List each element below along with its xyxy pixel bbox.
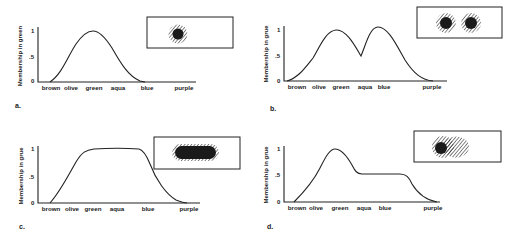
x-label-blue: blue: [378, 83, 391, 90]
x-label-brown: brown: [42, 205, 61, 212]
panel-label: c.: [19, 223, 25, 230]
y-tick-0: 0: [31, 78, 35, 84]
x-tick-labels: brown olive green aqua blue purple: [42, 205, 199, 212]
panel-label: a.: [15, 102, 21, 109]
x-label-purple: purple: [175, 84, 194, 91]
membership-curve: [50, 31, 145, 82]
dark-core: [435, 142, 447, 154]
y-tick-half: .5: [275, 172, 281, 178]
x-label-aqua: aqua: [358, 83, 373, 90]
x-label-aqua: aqua: [357, 204, 372, 211]
y-axis-label: Membership in grue: [263, 146, 269, 204]
inset-diagram: [154, 137, 240, 169]
dark-pill: [175, 146, 216, 159]
inset-diagram: [414, 131, 501, 162]
panel-b: Membership in grue 1 .5 0 brown olive gr…: [263, 7, 502, 112]
y-tick-half: .5: [29, 54, 35, 60]
panel-a: Membership in green 1 .5 0 brown olive g…: [15, 17, 233, 109]
x-label-aqua: aqua: [110, 205, 125, 212]
panel-c: Membership in grue 1 .5 0 brown olive gr…: [18, 137, 240, 230]
y-tick-0: 0: [277, 78, 281, 84]
x-label-blue: blue: [141, 84, 154, 91]
x-label-olive: olive: [312, 83, 327, 90]
figure: Membership in green 1 .5 0 brown olive g…: [0, 0, 520, 241]
x-tick-labels: brown olive green aqua blue purple: [288, 204, 443, 211]
x-label-green: green: [332, 204, 349, 211]
y-axis-label: Membership in grue: [263, 25, 269, 83]
x-tick-labels: brown olive green aqua blue purple: [42, 84, 194, 91]
inset-diagram: [417, 7, 502, 38]
y-tick-1: 1: [31, 146, 35, 152]
panel-label: b.: [270, 105, 276, 112]
x-label-purple: purple: [423, 83, 442, 90]
x-label-green: green: [86, 84, 103, 91]
x-label-olive: olive: [309, 204, 324, 211]
y-tick-half: .5: [29, 174, 35, 180]
x-label-purple: purple: [424, 204, 443, 211]
inset-diagram: [147, 17, 233, 48]
x-label-olive: olive: [65, 205, 80, 212]
panel-d: Membership in grue 1 .5 0 brown olive gr…: [263, 131, 501, 230]
x-label-brown: brown: [288, 204, 307, 211]
membership-curve: [287, 27, 433, 81]
dark-core: [173, 29, 184, 40]
x-label-blue: blue: [142, 205, 155, 212]
x-label-brown: brown: [42, 84, 61, 91]
y-axis-label: Membership in green: [17, 25, 23, 86]
y-axis-label: Membership in grue: [18, 147, 24, 205]
x-label-purple: purple: [180, 205, 199, 212]
x-label-green: green: [85, 205, 102, 212]
x-label-aqua: aqua: [111, 84, 126, 91]
panel-label: d.: [267, 223, 273, 230]
x-label-green: green: [333, 83, 350, 90]
y-tick-0: 0: [31, 200, 35, 206]
x-label-blue: blue: [379, 204, 392, 211]
y-tick-1: 1: [277, 27, 281, 33]
x-label-olive: olive: [64, 84, 79, 91]
x-tick-labels: brown olive green aqua blue purple: [288, 83, 442, 90]
y-tick-1: 1: [277, 146, 281, 152]
y-tick-half: .5: [275, 53, 281, 59]
dark-core-left: [440, 17, 452, 29]
y-tick-0: 0: [277, 199, 281, 205]
x-label-brown: brown: [288, 83, 307, 90]
dark-core-right: [465, 17, 477, 29]
y-tick-1: 1: [31, 28, 35, 34]
